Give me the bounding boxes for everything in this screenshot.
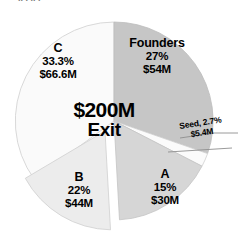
slice-label-a: A 15% $30M	[134, 167, 196, 207]
slice-label-c-percent: 33.3%	[16, 55, 100, 68]
slice-label-b: B 22% $44M	[44, 170, 114, 210]
slice-label-founders: Founders 27% $54M	[118, 36, 196, 76]
slice-label-b-amount: $44M	[44, 197, 114, 210]
slice-label-a-name: A	[134, 167, 196, 181]
slice-label-founders-name: Founders	[118, 36, 196, 50]
slice-label-c: C 33.3% $66.6M	[16, 41, 100, 81]
slice-label-founders-amount: $54M	[118, 63, 196, 76]
slice-label-b-percent: 22%	[44, 184, 114, 197]
pie-chart: .. . .. . Founders 27% $54M C 33.3% $66.…	[0, 0, 243, 246]
slice-label-founders-percent: 27%	[118, 50, 196, 63]
cropped-title-text: .. . .. .	[18, 0, 41, 3]
center-total-amount: $200M	[52, 99, 156, 120]
slice-label-b-name: B	[44, 170, 114, 184]
slice-label-a-amount: $30M	[134, 194, 196, 207]
center-total-word: Exit	[52, 120, 156, 139]
slice-label-a-percent: 15%	[134, 181, 196, 194]
cropped-title-fragment: .. . .. .	[0, 0, 243, 9]
slice-label-c-name: C	[16, 41, 100, 55]
slice-label-c-amount: $66.6M	[16, 68, 100, 81]
center-total-label: $200M Exit	[52, 99, 156, 140]
